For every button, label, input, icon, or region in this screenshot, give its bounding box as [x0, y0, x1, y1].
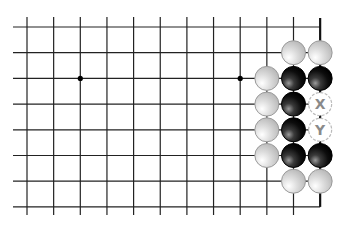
- marker-label: X: [315, 96, 326, 112]
- board-grid: [13, 17, 320, 215]
- go-board: XY: [0, 0, 343, 229]
- white-stone: [255, 66, 279, 90]
- black-stone: [282, 118, 306, 142]
- white-stone: [255, 118, 279, 142]
- point-marker-y: Y: [309, 118, 332, 141]
- star-point: [238, 76, 243, 81]
- star-point: [78, 76, 83, 81]
- white-stone: [308, 169, 332, 193]
- white-stone: [282, 169, 306, 193]
- white-stone: [282, 41, 306, 65]
- black-stone: [282, 66, 306, 90]
- marker-label: Y: [314, 122, 326, 138]
- black-stone: [308, 144, 332, 168]
- black-stone: [282, 92, 306, 116]
- point-marker-x: X: [309, 93, 332, 116]
- white-stone: [255, 92, 279, 116]
- black-stone: [282, 144, 306, 168]
- white-stone: [255, 144, 279, 168]
- black-stone: [308, 66, 332, 90]
- white-stone: [308, 41, 332, 65]
